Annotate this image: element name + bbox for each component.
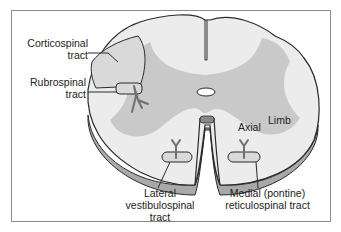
- label-limb: Limb: [268, 114, 291, 126]
- label-corticospinal: Corticospinal tract: [18, 37, 88, 61]
- corticospinal-tract-region: [91, 36, 145, 88]
- label-medial-reticulospinal: Medial (pontine) reticulospinal tract: [210, 187, 325, 211]
- anterior-commissure: [200, 116, 214, 123]
- label-rubrospinal: Rubrospinal tract: [18, 76, 86, 100]
- rubrospinal-tract-region: [116, 83, 142, 94]
- label-lateral-vestibulospinal: Lateral vestibulospinal tract: [110, 187, 210, 223]
- central-canal: [197, 88, 215, 96]
- label-axial: Axial: [238, 121, 261, 133]
